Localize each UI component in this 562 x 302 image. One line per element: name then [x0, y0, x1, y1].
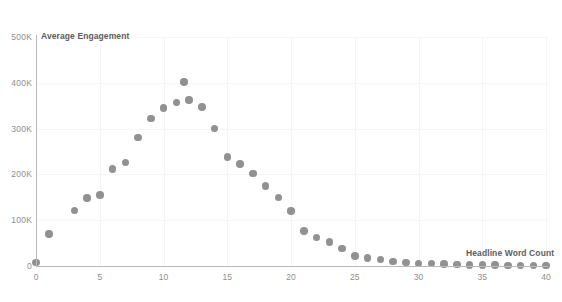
data-point[interactable]	[402, 259, 410, 267]
y-axis-tick-label: 300K	[0, 124, 32, 134]
x-axis-tick-label: 10	[144, 272, 184, 282]
y-axis-tick-label: 100K	[0, 215, 32, 225]
data-point[interactable]	[453, 261, 461, 269]
data-point[interactable]	[173, 99, 181, 107]
gridline-horizontal	[36, 174, 546, 175]
gridline-vertical	[482, 37, 483, 266]
data-point[interactable]	[198, 103, 206, 111]
data-point[interactable]	[122, 159, 130, 167]
data-point[interactable]	[160, 104, 168, 112]
data-point[interactable]	[249, 170, 257, 178]
y-axis-title: Average Engagement	[41, 31, 129, 41]
gridline-vertical	[291, 37, 292, 266]
data-point[interactable]	[96, 191, 104, 199]
x-axis-title: Headline Word Count	[466, 248, 554, 258]
data-point[interactable]	[71, 207, 79, 215]
data-point[interactable]	[300, 227, 308, 235]
data-point[interactable]	[338, 245, 346, 253]
data-point[interactable]	[466, 261, 474, 269]
data-point[interactable]	[211, 125, 219, 133]
x-axis-tick-label: 25	[335, 272, 375, 282]
data-point[interactable]	[185, 96, 193, 104]
data-point[interactable]	[275, 194, 283, 202]
data-point[interactable]	[147, 115, 155, 123]
gridline-vertical	[100, 37, 101, 266]
x-axis-tick-label: 20	[271, 272, 311, 282]
x-axis-line	[36, 266, 548, 267]
gridline-vertical	[546, 37, 547, 266]
data-point[interactable]	[134, 134, 142, 142]
gridline-horizontal	[36, 129, 546, 130]
data-point[interactable]	[313, 234, 321, 242]
x-axis-tick-label: 15	[207, 272, 247, 282]
data-point[interactable]	[351, 252, 359, 260]
data-point[interactable]	[109, 165, 117, 173]
data-point[interactable]	[377, 256, 385, 264]
y-axis-tick-label: 200K	[0, 169, 32, 179]
y-axis-line	[36, 35, 37, 267]
data-point[interactable]	[262, 182, 270, 190]
plot-area	[36, 37, 546, 266]
gridline-vertical	[355, 37, 356, 266]
data-point[interactable]	[180, 78, 188, 86]
y-axis-tick-label: 400K	[0, 78, 32, 88]
data-point[interactable]	[45, 230, 53, 238]
data-point[interactable]	[389, 258, 397, 266]
gridline-vertical	[419, 37, 420, 266]
data-point[interactable]	[83, 194, 91, 202]
x-axis-tick-label: 30	[399, 272, 439, 282]
y-axis-tick-label: 500K	[0, 32, 32, 42]
gridline-vertical	[227, 37, 228, 266]
y-axis-tick-label: 0	[0, 261, 32, 271]
x-axis-tick-label: 40	[526, 272, 562, 282]
gridline-horizontal	[36, 220, 546, 221]
data-point[interactable]	[364, 254, 372, 262]
data-point[interactable]	[236, 160, 244, 168]
gridline-vertical	[164, 37, 165, 266]
gridline-horizontal	[36, 83, 546, 84]
x-axis-tick-label: 0	[16, 272, 56, 282]
data-point[interactable]	[326, 238, 334, 246]
data-point[interactable]	[287, 207, 295, 215]
x-axis-tick-label: 35	[462, 272, 502, 282]
scatter-chart: 0100K200K300K400K500K 0510152025303540 A…	[0, 0, 562, 302]
x-axis-tick-label: 5	[80, 272, 120, 282]
data-point[interactable]	[224, 153, 232, 161]
